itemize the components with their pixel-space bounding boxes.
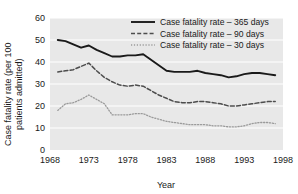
y-axis-label-line1: Case fatality rate (per 100 xyxy=(3,42,13,146)
y-tick-label: 0 xyxy=(40,145,45,155)
y-axis-label-line2: patients admitted) xyxy=(14,58,24,130)
chart-figure: 0102030405060 19681973197819831988199319… xyxy=(0,0,298,194)
y-tick-label: 60 xyxy=(35,13,45,23)
x-axis-label: Year xyxy=(157,180,175,190)
chart-legend: Case fatality rate – 365 daysCase fatali… xyxy=(131,17,269,50)
x-tick-label: 1993 xyxy=(234,155,254,165)
x-tick-label: 1998 xyxy=(273,155,293,165)
y-tick-label: 50 xyxy=(35,35,45,45)
legend-label-0: Case fatality rate – 365 days xyxy=(160,17,269,27)
legend-label-2: Case fatality rate – 30 days xyxy=(160,40,264,50)
x-tick-label: 1983 xyxy=(156,155,176,165)
legend-label-1: Case fatality rate – 90 days xyxy=(160,29,264,39)
x-tick-label: 1988 xyxy=(195,155,215,165)
y-tick-label: 30 xyxy=(35,79,45,89)
x-tick-label: 1968 xyxy=(40,155,60,165)
y-tick-label: 40 xyxy=(35,57,45,67)
case-fatality-rate-line-chart: 0102030405060 19681973197819831988199319… xyxy=(0,0,298,194)
y-tick-label: 20 xyxy=(35,101,45,111)
y-tick-label: 10 xyxy=(35,123,45,133)
x-tick-label: 1973 xyxy=(79,155,99,165)
x-tick-label: 1978 xyxy=(118,155,138,165)
